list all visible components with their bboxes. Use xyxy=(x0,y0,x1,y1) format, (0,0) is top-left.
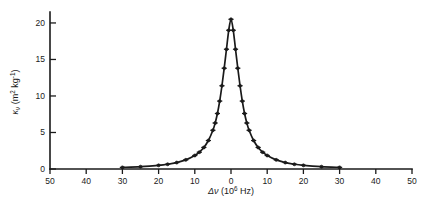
x-tick-label: 10 xyxy=(262,176,272,186)
data-point-marker xyxy=(215,112,220,115)
data-point-marker xyxy=(210,129,215,132)
y-tick-label: 5 xyxy=(40,127,45,137)
y-axis-tick-labels: 05101520 xyxy=(36,18,46,174)
axes-group xyxy=(50,12,412,169)
x-tick-label: 50 xyxy=(45,176,55,186)
x-tick-label: 50 xyxy=(407,176,417,186)
x-tick-label: 30 xyxy=(335,176,345,186)
data-point-marker xyxy=(244,122,249,125)
data-point-marker xyxy=(301,164,306,167)
data-curve xyxy=(122,19,339,167)
x-tick-label: 20 xyxy=(154,176,164,186)
data-point-marker xyxy=(251,139,256,142)
y-tick-label: 20 xyxy=(36,18,46,28)
data-point-marker xyxy=(156,164,161,167)
data-point-marker xyxy=(224,48,229,51)
x-tick-label: 40 xyxy=(81,176,91,186)
data-point-marker xyxy=(206,139,211,142)
data-point-marker xyxy=(233,48,238,51)
x-tick-label: 20 xyxy=(299,176,309,186)
x-axis-label: Δν (106 Hz) xyxy=(207,185,254,196)
data-point-marker xyxy=(247,129,252,132)
x-axis-tick-labels: 504030201001020304050 xyxy=(45,176,417,186)
data-point-marker xyxy=(217,100,222,103)
data-point-marker xyxy=(242,112,247,115)
data-point-marker xyxy=(240,100,245,103)
y-axis-ticks xyxy=(50,23,56,169)
y-tick-label: 10 xyxy=(36,91,46,101)
y-tick-label: 15 xyxy=(36,54,46,64)
data-point-marker xyxy=(228,18,233,21)
x-tick-label: 0 xyxy=(229,176,234,186)
x-tick-label: 40 xyxy=(371,176,381,186)
data-point-marker xyxy=(235,67,240,70)
figure-container: 504030201001020304050 05101520 Δν (106 H… xyxy=(0,0,432,202)
lorentzian-lineshape-chart: 504030201001020304050 05101520 Δν (106 H… xyxy=(0,0,432,202)
data-point-marker xyxy=(237,84,242,87)
data-point-marker xyxy=(222,67,227,70)
y-tick-label: 0 xyxy=(40,164,45,174)
y-axis-label: κν (m2 kg-1) xyxy=(9,70,22,115)
data-point-marker xyxy=(219,84,224,87)
data-point-marker xyxy=(226,29,231,32)
data-point-marker xyxy=(213,122,218,125)
data-point-marker xyxy=(319,165,324,168)
x-tick-label: 30 xyxy=(118,176,128,186)
x-tick-label: 10 xyxy=(190,176,200,186)
data-point-markers xyxy=(120,18,342,169)
data-point-marker xyxy=(138,165,143,168)
data-point-marker xyxy=(231,29,236,32)
